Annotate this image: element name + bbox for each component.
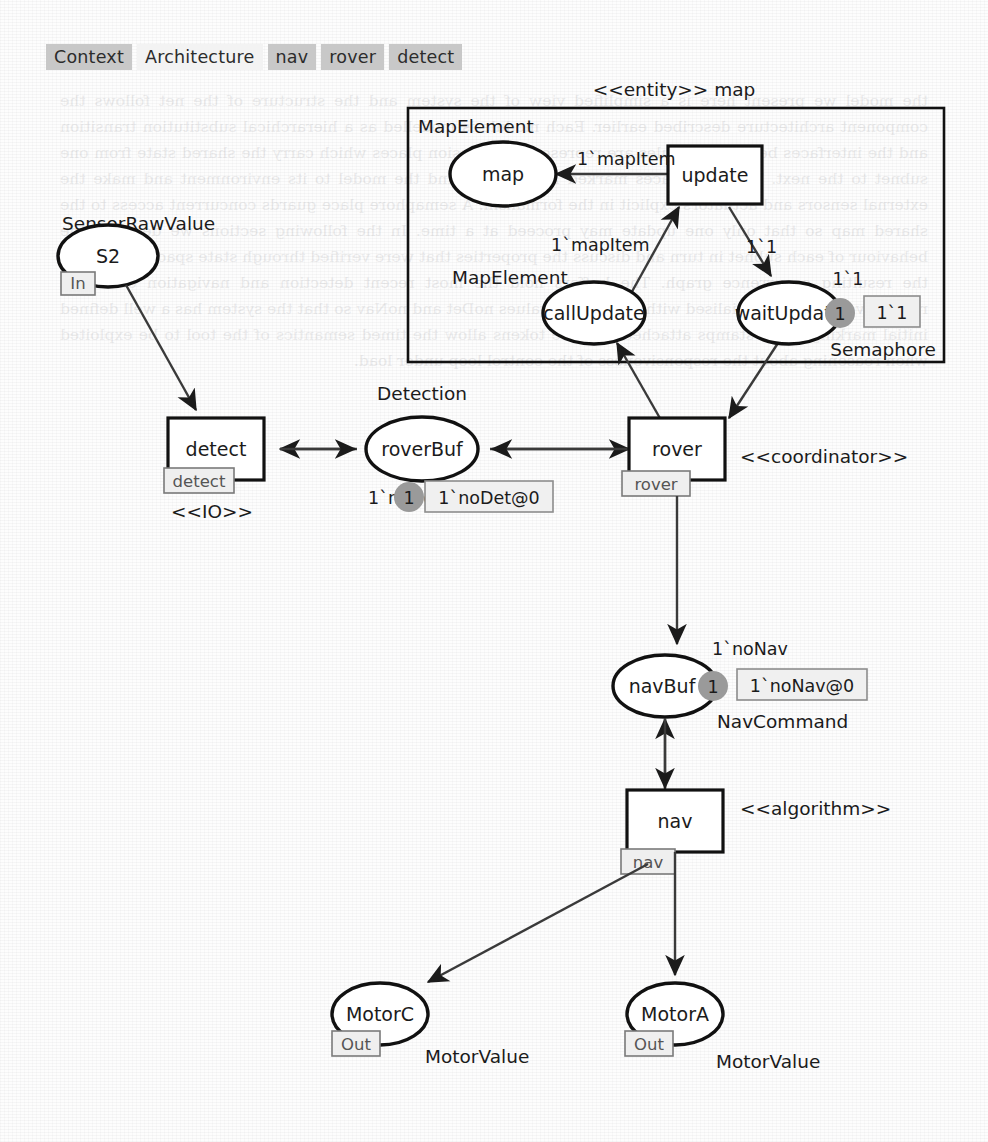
place-navbuf-marking: 1`noNav@0	[750, 676, 855, 696]
place-navbuf-colorset: NavCommand	[717, 711, 848, 732]
arc-waitupdate-to-rover	[729, 340, 780, 418]
place-motora-label: MotorA	[641, 1003, 709, 1025]
place-motorc-label: MotorC	[346, 1003, 414, 1025]
arc-rover-to-callupdate	[617, 343, 661, 420]
place-motora-port-label: Out	[634, 1035, 664, 1054]
arc-s2-to-detect	[126, 285, 196, 410]
place-waitupdate-colorset: Semaphore	[830, 339, 936, 360]
arc-nav-to-motorc	[428, 864, 648, 982]
place-roverbuf-marking: 1`noDet@0	[438, 488, 539, 508]
place-map-label: map	[482, 163, 524, 185]
transition-detect-subst-label: detect	[173, 472, 226, 491]
entity-map-title: <<entity>> map	[593, 79, 756, 100]
transition-update-label: update	[682, 164, 749, 186]
transition-rover-subst-label: rover	[634, 475, 677, 494]
petri-net-canvas: <<entity>> map MapElement map update 1`m…	[0, 0, 988, 1142]
place-navbuf-token-count: 1	[707, 677, 718, 697]
place-s2-port-label: In	[70, 274, 85, 293]
place-waitupdate-marking: 1`1	[876, 303, 907, 323]
transition-rover-label: rover	[652, 438, 702, 460]
transition-nav-stereotype: <<algorithm>>	[740, 798, 891, 819]
screenshot-root: the model we present here is a simplifie…	[0, 0, 988, 1142]
entity-map-inner-label: MapElement	[418, 116, 534, 137]
transition-rover-stereotype: <<coordinator>>	[740, 446, 908, 467]
place-roverbuf-label: roverBuf	[381, 438, 464, 460]
place-navbuf-label: navBuf	[629, 675, 697, 697]
place-motora-colorset: MotorValue	[716, 1051, 820, 1072]
place-roverbuf-token-count: 1	[403, 488, 414, 508]
place-motorc-colorset: MotorValue	[425, 1046, 529, 1067]
arc-inscription-update-map: 1`mapItem	[577, 149, 676, 169]
place-callupdate-colorset: MapElement	[452, 267, 568, 288]
arc-inscription-callupdate-update: 1`mapItem	[551, 235, 650, 255]
place-roverbuf-colorset: Detection	[377, 383, 467, 404]
place-waitupdate-token-count: 1	[834, 304, 845, 324]
place-motorc-port-label: Out	[341, 1035, 371, 1054]
transition-nav-label: nav	[658, 810, 693, 832]
place-s2-label: S2	[96, 245, 120, 267]
transition-detect-stereotype: <<IO>>	[171, 501, 253, 522]
place-callupdate-label: callUpdate	[543, 302, 644, 324]
arc-inscription-update-waitupdate: 1`1	[746, 237, 777, 257]
transition-detect-label: detect	[186, 438, 247, 460]
place-navbuf-marking-above: 1`noNav	[712, 639, 788, 659]
place-waitupdate-marking-above: 1`1	[832, 269, 863, 289]
